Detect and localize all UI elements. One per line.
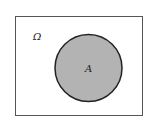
universe-label: Ω (32, 31, 41, 42)
venn-diagram: Ω A (0, 0, 150, 125)
set-a-label: A (84, 63, 92, 74)
